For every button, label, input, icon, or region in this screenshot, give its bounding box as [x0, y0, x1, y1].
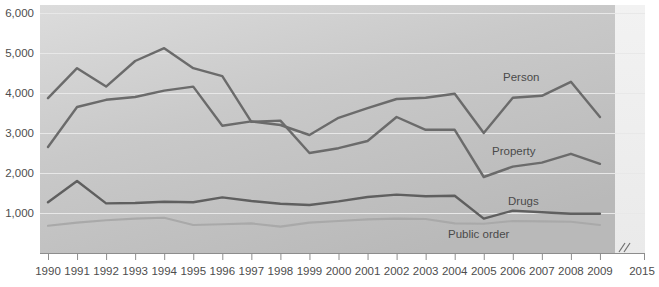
plot-background	[40, 5, 615, 253]
x-axis-tick-marks	[49, 253, 645, 260]
x-axis-tick-label: 1994	[151, 265, 177, 277]
x-axis-tick-label: 2005	[471, 265, 497, 277]
chart-canvas: 1,0002,0003,0004,0005,0006,000 199019911…	[0, 0, 659, 287]
x-axis-tick-label: 1996	[210, 265, 236, 277]
y-axis-tick-label: 3,000	[5, 127, 34, 139]
y-axis-tick-label: 1,000	[5, 207, 34, 219]
line-chart: 1,0002,0003,0004,0005,0006,000 199019911…	[0, 0, 659, 287]
y-axis-tick-label: 5,000	[5, 47, 34, 59]
x-axis-tick-label: 2000	[326, 265, 352, 277]
x-axis-tick-label: 2003	[413, 265, 439, 277]
x-axis-tick-label: 1991	[64, 265, 90, 277]
plot-background-break-region	[615, 5, 645, 253]
x-axis-tick-label: 1997	[239, 265, 265, 277]
y-axis-tick-label: 4,000	[5, 87, 34, 99]
y-axis-tick-labels: 1,0002,0003,0004,0005,0006,000	[5, 7, 34, 219]
x-axis-tick-label: 2009	[587, 265, 613, 277]
x-axis-tick-label-extra: 2015	[629, 265, 655, 277]
x-axis-tick-label: 2007	[529, 265, 555, 277]
series-label-property: Property	[492, 145, 536, 157]
x-axis-tick-label: 1998	[268, 265, 294, 277]
y-axis-tick-label: 2,000	[5, 167, 34, 179]
x-axis-tick-label: 2002	[384, 265, 410, 277]
series-label-person: Person	[503, 71, 539, 83]
series-label-drugs: Drugs	[508, 195, 539, 207]
series-label-public-order: Public order	[448, 228, 510, 240]
x-axis-tick-labels: 1990199119921993199419951996199719981999…	[35, 265, 655, 277]
x-axis-tick-label: 2008	[558, 265, 584, 277]
x-axis-tick-label: 1999	[297, 265, 323, 277]
y-axis-tick-label: 6,000	[5, 7, 34, 19]
x-axis-tick-label: 1992	[93, 265, 119, 277]
x-axis-tick-label: 2006	[500, 265, 526, 277]
x-axis-tick-label: 2004	[442, 265, 468, 277]
x-axis-tick-label: 1995	[180, 265, 206, 277]
x-axis-tick-label: 1993	[122, 265, 148, 277]
x-axis-tick-label: 1990	[35, 265, 61, 277]
x-axis-tick-label: 2001	[355, 265, 381, 277]
